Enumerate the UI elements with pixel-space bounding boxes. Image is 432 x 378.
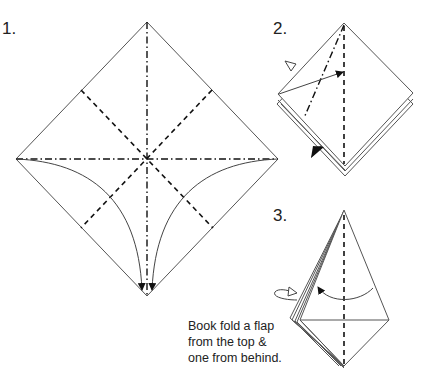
step-2-front-layer [278, 23, 413, 166]
step-2-fold-behind-icon [285, 61, 296, 71]
step-1-label: 1. [2, 19, 16, 38]
step-2-label: 2. [273, 19, 287, 38]
step-3-fold-behind-icon [288, 287, 297, 296]
step-3-note-line-3: one from behind. [188, 351, 282, 365]
origami-diagram: 1. 2. 3. [0, 0, 432, 378]
step-3-note-line-2: from the top & [188, 335, 267, 349]
step-2: 2. [273, 19, 413, 176]
step-3: 3. Book fold a flap from the top & one f… [188, 206, 389, 368]
step-3-label: 3. [273, 206, 287, 225]
step-1: 1. [2, 19, 278, 296]
step-3-note-line-1: Book fold a flap [188, 319, 274, 333]
